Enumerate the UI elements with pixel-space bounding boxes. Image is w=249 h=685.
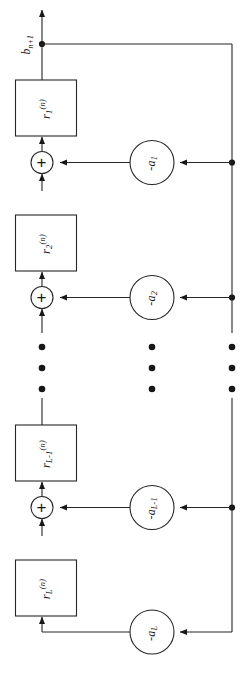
gain-node-aL-label: -aL: [145, 615, 160, 651]
adder-2-plus-symbol: +: [37, 289, 47, 306]
delay-block-rL-label: rL(n): [38, 569, 54, 609]
rL-superscript: (n): [37, 579, 47, 590]
aL-base: -a: [144, 631, 158, 641]
gain-node-a2-label: -a2: [145, 280, 160, 316]
ellipsis-column-middle: [149, 344, 156, 393]
output-signal-label: bn+1: [21, 25, 34, 65]
a1-base: -a: [144, 160, 158, 170]
a1-subscript: 1: [150, 156, 159, 160]
output-signal-base: b: [20, 49, 32, 55]
rLm1-superscript: (n): [37, 440, 47, 451]
aLm1-subscript: L-1: [150, 497, 159, 509]
r1-base: r: [39, 114, 53, 119]
rL-base: r: [39, 594, 53, 599]
delay-block-r1-label: r1(n): [38, 89, 54, 129]
adder-1-plus-symbol: +: [37, 154, 47, 171]
delay-block-rLm1-label: rL-1(n): [38, 430, 54, 478]
signal-flow-diagram: bn+1 r1(n) r2(n) rL-1(n) rL(n) -a1 -a2 -…: [0, 0, 249, 685]
rLm1-subscript: L-1: [44, 450, 54, 462]
adder-3-plus-symbol: +: [37, 499, 47, 516]
ellipsis-column-left: [39, 344, 46, 393]
gain-node-a1-label: -a1: [145, 145, 160, 181]
output-signal-subscript: n+1: [26, 35, 35, 49]
rLm1-base: r: [39, 463, 53, 468]
gain-node-aLm1-label: -aL-1: [145, 486, 160, 530]
r2-base: r: [39, 249, 53, 254]
r1-superscript: (n): [37, 99, 47, 110]
ellipsis-column-right: [229, 344, 236, 393]
a2-base: -a: [144, 295, 158, 305]
aLm1-base: -a: [144, 509, 158, 519]
r2-superscript: (n): [37, 234, 47, 245]
r2-subscript: 2: [44, 244, 54, 248]
rL-subscript: L: [44, 589, 54, 594]
r1-subscript: 1: [44, 109, 54, 113]
delay-block-r2-label: r2(n): [38, 224, 54, 264]
aL-subscript: L: [150, 626, 159, 631]
a2-subscript: 2: [150, 291, 159, 295]
